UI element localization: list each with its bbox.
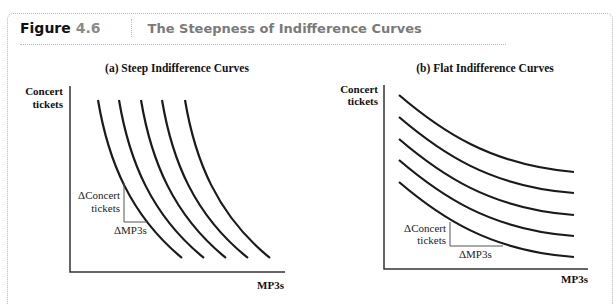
panel-b-y-label-2: tickets <box>347 95 378 107</box>
panel-b: (b) Flat Indifference Curves Concert tic… <box>340 62 589 285</box>
panel-a-y-label-2: tickets <box>32 98 63 110</box>
panel-b-delta-y-2: tickets <box>417 234 446 246</box>
panel-a-x-label: MP3s <box>257 279 285 291</box>
panel-b-delta-y-1: ΔConcert <box>404 222 446 234</box>
panel-b-x-label: MP3s <box>561 273 589 285</box>
panel-a: (a) Steep Indifference Curves Concert ti… <box>25 62 285 291</box>
panel-a-curve-5 <box>185 100 270 258</box>
panel-a-delta-y-2: tickets <box>91 202 120 214</box>
panel-a-curve-4 <box>162 100 248 258</box>
panel-a-delta-x: ΔMP3s <box>114 224 147 236</box>
panel-b-y-label-1: Concert <box>340 83 378 95</box>
panel-a-curve-3 <box>141 100 226 258</box>
panel-a-title: (a) Steep Indifference Curves <box>105 62 249 75</box>
panel-a-y-label-1: Concert <box>25 85 63 97</box>
panel-b-axes <box>384 85 588 269</box>
panel-a-axes <box>70 86 285 272</box>
panel-a-delta-y-1: ΔConcert <box>78 189 120 201</box>
panel-b-delta-x: ΔMP3s <box>459 248 492 260</box>
panel-b-title: (b) Flat Indifference Curves <box>416 62 554 75</box>
